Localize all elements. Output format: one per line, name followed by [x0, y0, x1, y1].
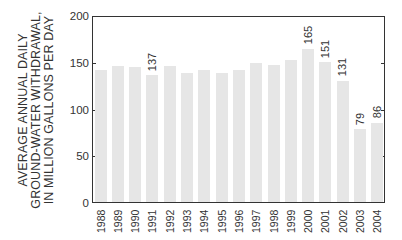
x-tick-label: 1990 [129, 210, 141, 233]
x-tick-label: 2004 [371, 210, 383, 233]
bar-1997 [250, 63, 262, 202]
x-tick-label: 2001 [319, 210, 331, 233]
x-tick-label: 1991 [146, 210, 158, 233]
x-tick-label: 2002 [337, 210, 349, 233]
y-tick-label: 0 [83, 197, 89, 209]
x-tick-label: 1988 [95, 210, 107, 233]
x-tick-label: 1993 [181, 210, 193, 233]
bar-1993 [181, 73, 193, 202]
x-tick-label: 2000 [302, 210, 314, 233]
bar-2000 [302, 49, 314, 202]
y-tick-mark-right [381, 63, 385, 64]
x-tick-label: 1999 [285, 210, 297, 233]
y-tick-label: 100 [70, 104, 89, 116]
x-tick-label: 1994 [198, 210, 210, 233]
bar-1995 [216, 73, 228, 202]
bar-data-label: 131 [337, 58, 349, 77]
y-tick-label: 200 [70, 10, 89, 22]
y-tick-label: 150 [70, 57, 89, 69]
bar-data-label: 79 [354, 113, 366, 125]
x-tick-label: 1996 [233, 210, 245, 233]
bar-data-label: 165 [302, 26, 314, 45]
bar-1992 [164, 66, 176, 202]
bar-1994 [198, 70, 210, 202]
x-tick-label: 1992 [164, 210, 176, 233]
x-tick-label: 1995 [216, 210, 228, 233]
bar-1989 [112, 66, 124, 202]
y-axis-title-line-3: IN MILLION GALLONS PER DAY [43, 11, 56, 208]
bar-data-label: 137 [146, 52, 158, 71]
x-tick-label: 2003 [354, 210, 366, 233]
bar-2002 [337, 81, 349, 202]
bar-1990 [129, 67, 141, 202]
bar-2001 [319, 62, 331, 202]
x-tick-label: 1998 [268, 210, 280, 233]
bar-1996 [233, 70, 245, 202]
bar-2004 [371, 123, 383, 202]
x-tick-label: 1989 [112, 210, 124, 233]
bar-1999 [285, 60, 297, 202]
bar-2003 [354, 129, 366, 202]
bar-1991 [146, 75, 158, 202]
bar-data-label: 86 [371, 106, 383, 118]
bar-1988 [95, 70, 107, 202]
y-tick-label: 50 [76, 150, 89, 162]
y-tick-mark-left [92, 63, 96, 64]
bar-data-label: 151 [319, 39, 331, 58]
x-tick-label: 1997 [250, 210, 262, 233]
y-axis-title: AVERAGE ANNUAL DAILY GROUND-WATER WITHDR… [6, 16, 66, 204]
bar-1998 [268, 65, 280, 202]
